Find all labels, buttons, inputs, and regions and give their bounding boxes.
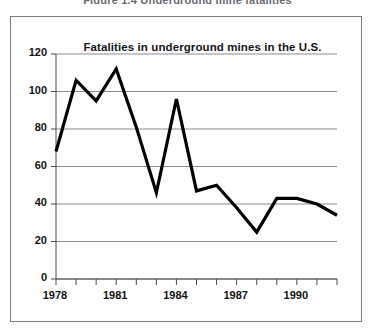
x-tick-label: 1984 bbox=[155, 290, 195, 301]
x-tick-label: 1987 bbox=[216, 290, 256, 301]
y-tick-label: 60 bbox=[17, 160, 47, 171]
x-tick-label: 1978 bbox=[35, 290, 75, 301]
line-chart-plot bbox=[11, 17, 363, 323]
data-series-line bbox=[56, 69, 337, 232]
y-tick-label: 20 bbox=[17, 235, 47, 246]
y-tick-label: 120 bbox=[17, 47, 47, 58]
y-tick-label: 80 bbox=[17, 122, 47, 133]
y-tick-label: 40 bbox=[17, 197, 47, 208]
y-tick-label: 0 bbox=[17, 272, 47, 283]
x-tick-label: 1990 bbox=[276, 290, 316, 301]
chart-frame: Fatalities in underground mines in the U… bbox=[10, 16, 362, 322]
x-tick-label: 1981 bbox=[95, 290, 135, 301]
y-tick-label: 100 bbox=[17, 85, 47, 96]
figure-caption: Figure 1.4 Underground mine fatalities bbox=[0, 0, 375, 4]
